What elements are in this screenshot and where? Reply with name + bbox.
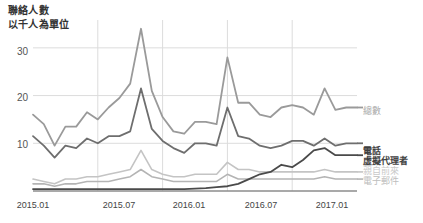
y-tick-30: 30	[4, 47, 28, 57]
y-tick-10: 10	[4, 140, 28, 150]
legend-item-virtual-agent: 虛擬代理者	[363, 156, 408, 166]
chart-plot-area	[0, 0, 423, 223]
legend-item-phone: 電話	[363, 146, 381, 156]
contacts-line-chart: 聯絡人數 以千人為單位 30 20 10 2015.01 2015.07 201…	[0, 0, 423, 223]
x-tick-2017-01: 2017.01	[304, 200, 360, 210]
x-tick-2016-07: 2016.07	[233, 200, 289, 210]
x-tick-2015-01: 2015.01	[5, 200, 61, 210]
legend-item-email: 電子郵件	[363, 176, 399, 186]
legend-item-total: 總數	[363, 106, 381, 116]
x-tick-2016-01: 2016.01	[161, 200, 217, 210]
y-tick-20: 20	[4, 93, 28, 103]
series-line-0	[33, 29, 357, 146]
x-tick-2015-07: 2015.07	[91, 200, 147, 210]
legend-item-in-person: 親自前來	[363, 166, 399, 176]
